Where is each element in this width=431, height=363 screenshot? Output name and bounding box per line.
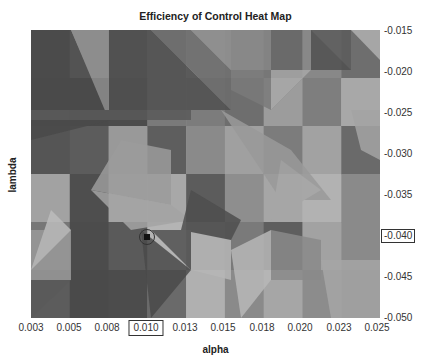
y-tick: -0.015 — [384, 25, 412, 37]
x-tick: 0.018 — [249, 322, 274, 334]
heatmap-cell — [302, 126, 341, 175]
optimum-marker[interactable] — [139, 229, 155, 245]
x-tick: 0.020 — [287, 322, 312, 334]
heatmap-plot-area[interactable] — [31, 30, 380, 318]
y-tick: -0.035 — [384, 189, 412, 201]
y-tick: -0.020 — [384, 66, 412, 78]
heatmap-cell — [341, 174, 380, 223]
x-axis-label: alpha — [0, 344, 431, 355]
y-tick: -0.030 — [384, 148, 412, 160]
x-tick: 0.008 — [94, 322, 119, 334]
y-tick-highlighted: -0.040 — [381, 229, 415, 243]
y-tick: -0.025 — [384, 107, 412, 119]
x-tick: 0.013 — [172, 322, 197, 334]
heatmap-cell — [186, 270, 225, 318]
y-tick: -0.045 — [384, 271, 412, 283]
x-tick: 0.025 — [364, 322, 389, 334]
heatmap-cell — [70, 270, 109, 318]
heatmap-cell — [302, 78, 341, 127]
x-tick-highlighted: 0.010 — [128, 320, 163, 336]
x-tick: 0.023 — [326, 322, 351, 334]
heatmap-cell — [186, 126, 225, 175]
heatmap-cell — [70, 126, 109, 175]
heatmap-canvas — [31, 30, 380, 318]
heatmap-cell — [70, 222, 109, 271]
marker-square-icon — [144, 234, 150, 240]
heatmap-cell — [109, 270, 148, 318]
chart-title: Efficiency of Control Heat Map — [0, 10, 431, 22]
x-tick: 0.005 — [56, 322, 81, 334]
x-tick: 0.003 — [18, 322, 43, 334]
x-tick: 0.015 — [210, 322, 235, 334]
y-axis-label: lambda — [7, 157, 18, 192]
